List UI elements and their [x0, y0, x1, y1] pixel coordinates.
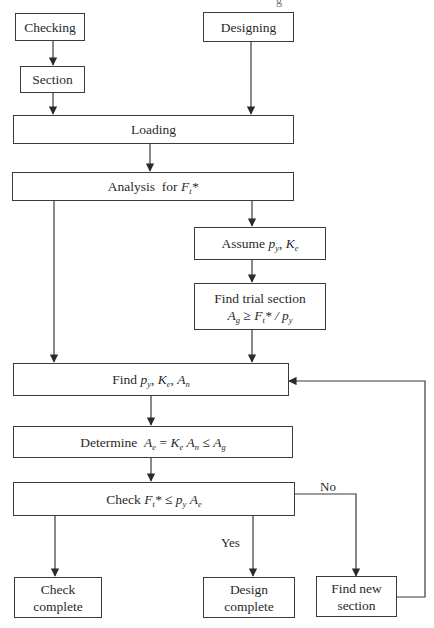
node-find-text: Find: [112, 372, 140, 387]
node-analysis-text: Analysis for: [108, 179, 181, 194]
node-section: Section: [20, 66, 85, 93]
node-designing: Designing: [203, 12, 294, 42]
node-find-new-section: Find new section: [316, 576, 397, 617]
math-suffix: *: [192, 179, 199, 194]
node-trial-line2: Ag ≥ Ft* / py: [227, 307, 292, 324]
math-var: A: [227, 308, 235, 323]
node-assume-label: Assume py, Ke: [222, 235, 299, 252]
node-find-new-section-line1: Find new: [331, 580, 382, 597]
arrow-loop-back-to-find: [289, 381, 425, 597]
node-designing-label: Designing: [221, 19, 277, 36]
edge-label-no: No: [320, 480, 336, 494]
node-analysis-label: Analysis for Ft*: [108, 178, 199, 195]
node-find-label: Find py, Ke, An: [112, 371, 189, 388]
math-var: K: [158, 372, 167, 387]
node-assume: Assume py, Ke: [194, 227, 326, 260]
node-checking: Checking: [15, 13, 85, 41]
math-sub: n: [185, 379, 189, 389]
node-loading: Loading: [13, 115, 294, 144]
math-sub: g: [221, 442, 225, 452]
math-var: K: [286, 236, 295, 251]
math-suffix: *: [155, 492, 162, 507]
node-trial-line1: Find trial section: [214, 290, 306, 307]
tension-member-design-flowchart: g: [0, 0, 434, 628]
math-sub: e: [198, 499, 202, 509]
node-design-complete-line2: complete: [224, 598, 273, 615]
node-find-trial-section: Find trial section Ag ≥ Ft* / py: [194, 283, 326, 330]
node-determine: Determine Ae = Ke An ≤ Ag: [13, 426, 293, 458]
math-var: A: [190, 492, 198, 507]
math-operator: =: [156, 435, 170, 450]
math-operator: ≥: [240, 308, 254, 323]
node-check-label: Check Ft* ≤ py Ae: [106, 491, 201, 508]
math-var: A: [187, 435, 195, 450]
math-var: A: [144, 435, 152, 450]
node-check-text: Check: [106, 492, 144, 507]
math-var: p: [282, 308, 289, 323]
math-var: F: [181, 179, 189, 194]
node-find-new-section-line2: section: [337, 597, 375, 614]
node-determine-text: Determine: [80, 435, 144, 450]
node-find-parameters: Find py, Ke, An: [13, 363, 289, 396]
math-operator: ≤: [199, 435, 213, 450]
node-check-complete: Check complete: [14, 577, 102, 618]
edge-label-yes: Yes: [221, 536, 240, 550]
node-loading-label: Loading: [131, 121, 176, 138]
math-sub: y: [289, 315, 293, 325]
node-checking-label: Checking: [24, 19, 76, 36]
node-section-label: Section: [32, 71, 73, 88]
node-check-condition: Check Ft* ≤ py Ae: [13, 482, 295, 516]
node-determine-label: Determine Ae = Ke An ≤ Ag: [80, 434, 225, 451]
math-suffix: ,: [279, 236, 286, 251]
node-check-complete-line2: complete: [33, 598, 82, 615]
math-suffix: * /: [265, 308, 282, 323]
arrow-check-to-find-new-section: [294, 494, 356, 576]
math-suffix: ,: [151, 372, 158, 387]
node-analysis: Analysis for Ft*: [12, 172, 294, 201]
node-assume-text: Assume: [222, 236, 269, 251]
math-operator: ≤: [162, 492, 176, 507]
node-check-complete-line1: Check: [41, 581, 76, 598]
node-design-complete-line1: Design: [230, 581, 268, 598]
node-design-complete: Design complete: [203, 577, 295, 618]
math-sub: e: [295, 243, 299, 253]
